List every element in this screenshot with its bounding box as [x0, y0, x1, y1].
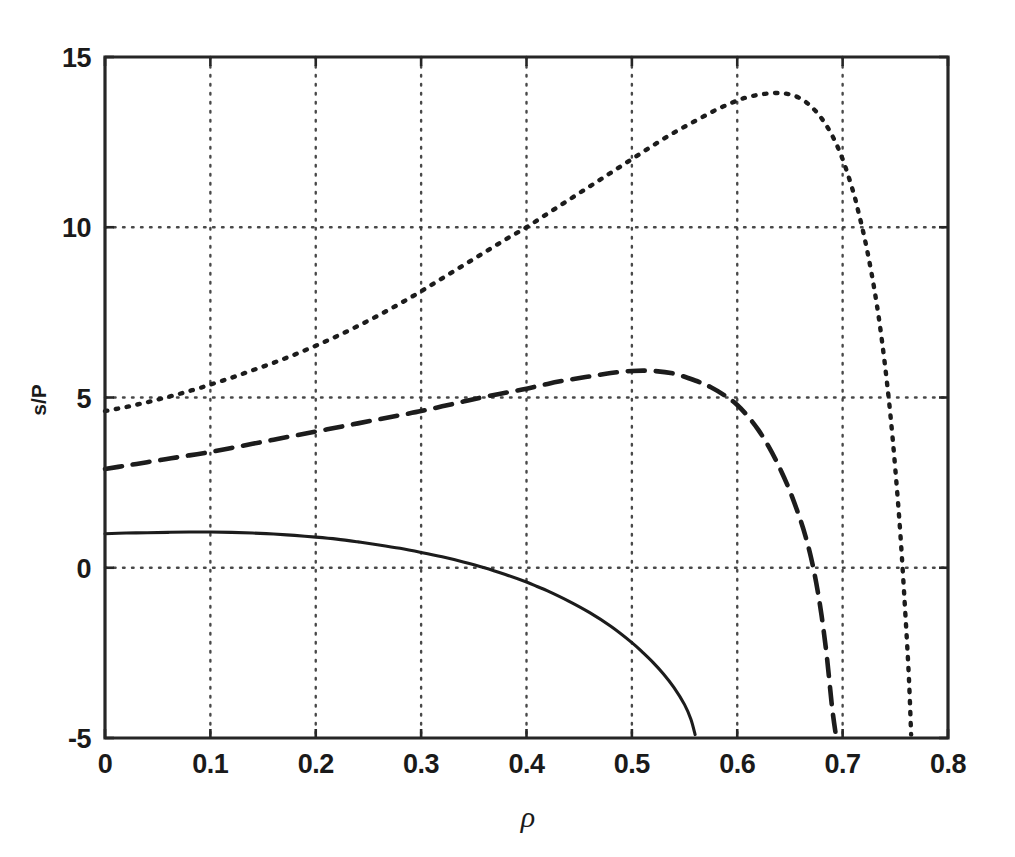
y-tick-label: 15 [62, 43, 92, 73]
x-tick-label: 0.6 [719, 749, 756, 779]
x-tick-label: 0 [98, 749, 113, 779]
x-axis-title: ρ [520, 800, 535, 833]
x-tick-label: 0.8 [930, 749, 967, 779]
y-tick-label: 0 [76, 554, 91, 584]
y-tick-label: 5 [76, 384, 91, 414]
x-tick-label: 0.1 [192, 749, 229, 779]
x-tick-label: 0.5 [614, 749, 651, 779]
figure-container: 00.10.20.30.40.50.60.70.8 -5051015 ρ s/P [0, 0, 1015, 857]
x-tick-label: 0.3 [403, 749, 440, 779]
figure-background [0, 0, 1015, 857]
x-tick-label: 0.4 [508, 749, 545, 779]
y-tick-label: -5 [68, 724, 91, 754]
x-tick-label: 0.7 [825, 749, 861, 779]
y-axis-title: s/P [27, 384, 50, 416]
x-tick-label: 0.2 [298, 749, 334, 779]
x-tick-labels: 00.10.20.30.40.50.60.70.8 [98, 749, 967, 779]
y-tick-label: 10 [62, 213, 91, 243]
chart-canvas: 00.10.20.30.40.50.60.70.8 -5051015 ρ s/P [0, 0, 1015, 857]
